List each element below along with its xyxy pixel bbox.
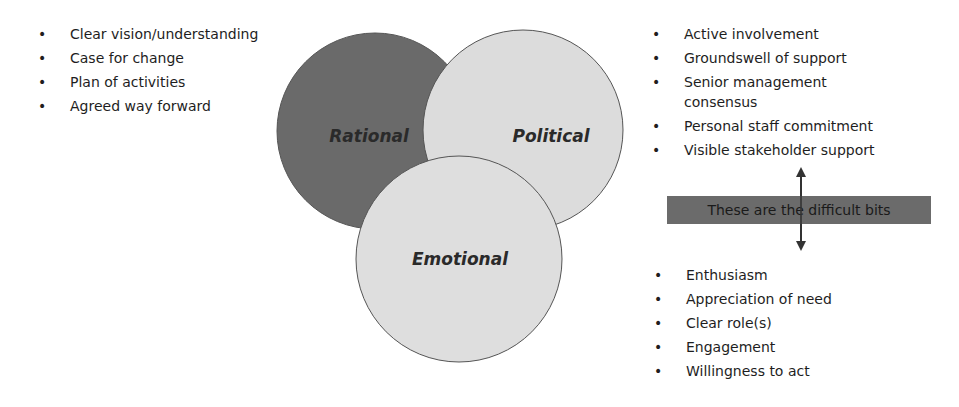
bullet-icon: • <box>654 289 662 309</box>
list-item: •Engagement <box>652 337 832 357</box>
list-item: •Willingness to act <box>652 361 832 381</box>
list-item: •Enthusiasm <box>652 265 832 285</box>
list-item: •Groundswell of support <box>650 48 884 68</box>
bullet-icon: • <box>652 48 660 68</box>
political-factors-list: •Active involvement •Groundswell of supp… <box>650 24 884 164</box>
list-item: •Active involvement <box>650 24 884 44</box>
bullet-icon: • <box>652 116 660 136</box>
list-item: •Visible stakeholder support <box>650 140 884 160</box>
list-item: •Senior management consensus <box>650 72 884 112</box>
rational-label: Rational <box>329 126 410 146</box>
bullet-icon: • <box>652 24 660 44</box>
bullet-icon: • <box>654 265 662 285</box>
bullet-icon: • <box>652 72 660 92</box>
list-item: •Personal staff commitment <box>650 116 884 136</box>
bullet-icon: • <box>654 361 662 381</box>
list-item: •Clear role(s) <box>652 313 832 333</box>
emotional-label: Emotional <box>412 249 509 269</box>
political-label: Political <box>512 126 590 146</box>
bullet-icon: • <box>654 313 662 333</box>
difficult-bits-banner: These are the difficult bits <box>667 196 931 224</box>
bullet-icon: • <box>654 337 662 357</box>
list-item: •Appreciation of need <box>652 289 832 309</box>
bullet-icon: • <box>652 140 660 160</box>
emotional-factors-list: •Enthusiasm •Appreciation of need •Clear… <box>652 265 832 385</box>
